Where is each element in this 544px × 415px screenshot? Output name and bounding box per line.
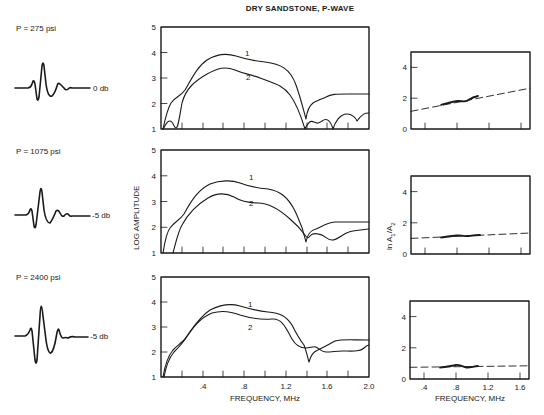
svg-text:3: 3 — [152, 323, 157, 332]
svg-text:1.2: 1.2 — [482, 383, 494, 392]
svg-text:4: 4 — [403, 63, 408, 72]
measured-curve — [441, 96, 478, 105]
curve-1 — [163, 305, 369, 377]
svg-text:3: 3 — [152, 74, 157, 83]
svg-text:2: 2 — [152, 100, 157, 109]
curve-label-1: 1 — [248, 300, 253, 309]
ratio-y-tick-labels: 420 420 420 — [402, 63, 408, 384]
svg-text:2: 2 — [402, 344, 407, 353]
svg-text:1: 1 — [152, 249, 157, 258]
curve-2 — [163, 68, 369, 129]
attenuation-chart-row-3 — [410, 301, 529, 379]
curve-label-1: 1 — [245, 49, 250, 58]
svg-text:2: 2 — [152, 348, 157, 357]
svg-text:1.6: 1.6 — [321, 382, 333, 391]
curve-label-2: 2 — [249, 199, 254, 208]
curve-2 — [164, 311, 369, 377]
curve-label-2: 2 — [248, 323, 253, 332]
svg-text:.4: .4 — [200, 382, 207, 391]
svg-text:5: 5 — [152, 23, 157, 32]
svg-text:3: 3 — [152, 198, 157, 207]
svg-text:2: 2 — [152, 223, 157, 232]
svg-text:4: 4 — [403, 188, 408, 197]
curve-1 — [163, 181, 369, 253]
svg-text:1.6: 1.6 — [514, 383, 526, 392]
attenuation-chart-row-2 — [411, 176, 530, 254]
spectrum-chart-row-1: 1 2 — [161, 27, 369, 129]
svg-text:1.2: 1.2 — [280, 382, 292, 391]
svg-text:4: 4 — [402, 313, 407, 322]
spectrum-chart-row-2: 1 2 — [161, 150, 369, 253]
main-y-tick-labels: 54321 54321 54321 — [152, 23, 157, 382]
waveform-row-2 — [15, 189, 90, 228]
figure-canvas: 1 2 1 2 1 2 — [0, 0, 544, 415]
curve-1 — [163, 55, 369, 129]
waveform-row-1 — [15, 63, 90, 100]
measured-curve — [441, 235, 480, 238]
svg-text:1: 1 — [152, 125, 157, 134]
waveform-row-3 — [15, 306, 88, 363]
curve-label-2: 2 — [246, 73, 251, 82]
svg-text:2: 2 — [403, 94, 408, 103]
fit-line-dashed — [411, 88, 530, 111]
curve-label-1: 1 — [249, 173, 254, 182]
svg-text:2.0: 2.0 — [363, 382, 375, 391]
svg-text:0: 0 — [403, 125, 408, 134]
svg-text:5: 5 — [152, 273, 157, 282]
svg-text:.8: .8 — [453, 383, 460, 392]
svg-text:0: 0 — [402, 375, 407, 384]
svg-text:0: 0 — [403, 250, 408, 259]
curve-2 — [173, 194, 369, 253]
svg-text:4: 4 — [152, 298, 157, 307]
main-x-tick-labels: .4.81.21.62.0 — [200, 382, 375, 391]
spectrum-chart-row-3: 1 2 — [161, 277, 369, 377]
svg-text:.4: .4 — [421, 383, 428, 392]
svg-text:4: 4 — [152, 172, 157, 181]
svg-text:5: 5 — [152, 146, 157, 155]
attenuation-chart-row-1 — [411, 52, 530, 129]
svg-text:4: 4 — [152, 49, 157, 58]
ratio-x-tick-labels: .4.81.21.6 — [421, 383, 526, 392]
svg-text:2: 2 — [403, 219, 408, 228]
svg-text:1: 1 — [152, 373, 157, 382]
svg-text:.8: .8 — [241, 382, 248, 391]
